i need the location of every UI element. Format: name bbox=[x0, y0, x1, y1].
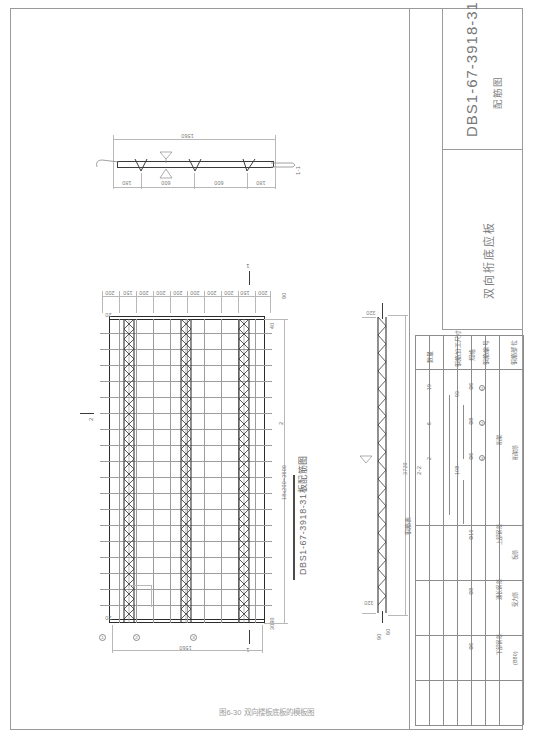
section-mark-2-left: 2 bbox=[88, 417, 94, 421]
table-border-right bbox=[523, 335, 524, 725]
ext-line bbox=[187, 291, 188, 313]
ext-line bbox=[119, 291, 120, 313]
title-block-sep bbox=[442, 149, 522, 150]
ext-line bbox=[238, 291, 239, 313]
plan-dim-top-10: 200 bbox=[258, 290, 268, 295]
title-block: DBS1-67-3918-31 配筋图 双向桁底应板 bbox=[409, 9, 522, 729]
dim-segment-3: 600 bbox=[214, 180, 224, 185]
ext-line bbox=[153, 291, 154, 313]
ext-line bbox=[262, 625, 263, 653]
ext-line bbox=[270, 291, 271, 313]
leader-line bbox=[151, 585, 152, 607]
ext-line bbox=[112, 625, 113, 653]
rebar-longitudinal bbox=[221, 319, 222, 623]
rebar-longitudinal bbox=[153, 319, 154, 623]
plan-dim-top-9: 150 bbox=[240, 290, 250, 295]
plan-dim-right-edge: 90 bbox=[282, 293, 287, 299]
plan-dim-top-4: 200 bbox=[156, 290, 166, 295]
truss-symbol-icon bbox=[133, 158, 149, 174]
rebar-bubble-2[interactable]: 2 bbox=[133, 634, 140, 641]
section-mark-1-top: 1 bbox=[246, 263, 250, 269]
dim-segment-2: 600 bbox=[161, 180, 171, 185]
sec2-height-note: 90 bbox=[377, 634, 382, 640]
slab-outline-top bbox=[109, 316, 264, 317]
rebar-bubble-3[interactable]: 3 bbox=[190, 634, 197, 641]
plan-dim-corner-tr: 40 bbox=[270, 323, 275, 329]
ext-line bbox=[388, 615, 408, 616]
ext-line bbox=[264, 319, 288, 320]
section-mark-2-right: 2 bbox=[278, 421, 284, 425]
leader-line bbox=[362, 613, 376, 614]
truss-top-chord-extension bbox=[382, 303, 383, 319]
ext-line bbox=[136, 291, 137, 313]
rebar-bubble-1[interactable]: 1 bbox=[99, 634, 106, 641]
plan-dim-corner-tl: 20 bbox=[105, 312, 111, 317]
dim-total-width: 1560 bbox=[181, 133, 194, 138]
truss-symbol-icon bbox=[241, 158, 257, 174]
rebar-longitudinal bbox=[204, 319, 205, 623]
rebar-longitudinal bbox=[255, 319, 256, 623]
ext-line bbox=[255, 291, 256, 313]
slab-outline-left bbox=[109, 316, 110, 623]
ext-line bbox=[247, 173, 248, 189]
title-block-left-border bbox=[409, 9, 410, 729]
section-mark-2-line bbox=[80, 413, 94, 414]
ext-line bbox=[170, 291, 171, 313]
ext-line bbox=[141, 173, 142, 189]
ext-line bbox=[113, 167, 114, 189]
title-block-divider bbox=[442, 149, 443, 329]
plan-dim-right-total: 18x200=3600 bbox=[282, 465, 287, 500]
truss-band-3 bbox=[237, 319, 251, 623]
sec2-dim-bottom: 320 bbox=[364, 600, 374, 605]
rebar-longitudinal bbox=[119, 319, 120, 623]
ext-line bbox=[388, 315, 408, 316]
sec2-dim-top: 320 bbox=[366, 310, 376, 315]
rebar-longitudinal bbox=[170, 319, 171, 623]
rebar-longitudinal bbox=[136, 319, 137, 623]
slab-outline-right bbox=[264, 316, 265, 623]
title-block-divider bbox=[442, 9, 443, 149]
plan-dim-top-6: 200 bbox=[190, 290, 200, 295]
leader-line bbox=[362, 317, 376, 318]
plan-view-title: DBS1-67-3918-31板配筋图 bbox=[299, 455, 308, 575]
dim-line bbox=[113, 139, 275, 140]
title-underline bbox=[293, 475, 295, 580]
figure-caption: 图6-30 双向楼板底板的模板图 bbox=[0, 706, 533, 717]
truss-symbol-icon bbox=[187, 158, 203, 174]
ext-line bbox=[275, 167, 276, 189]
rebar-hook-icon bbox=[95, 155, 121, 173]
plan-dim-top-3: 200 bbox=[139, 290, 149, 295]
ext-line bbox=[221, 291, 222, 313]
drawing-sheet: 1560 bbox=[0, 0, 533, 740]
section-1-1-label: 1-1 bbox=[295, 166, 301, 175]
sec2-dim-length: 3720 bbox=[403, 462, 408, 475]
callout-marker-icon bbox=[157, 149, 175, 163]
plan-dim-top-2: 150 bbox=[123, 290, 133, 295]
callout-marker-icon bbox=[358, 453, 378, 467]
plan-dim-top-1: 200 bbox=[105, 290, 115, 295]
title-block-sep bbox=[442, 329, 522, 330]
plan-dim-top-5: 200 bbox=[173, 290, 183, 295]
leader-line bbox=[129, 585, 151, 586]
section-mark-1-line bbox=[249, 271, 250, 285]
plan-dim-top-8: 200 bbox=[224, 290, 234, 295]
section-1-1-view: 1560 bbox=[95, 125, 305, 215]
plan-dim-top-7: 200 bbox=[207, 290, 217, 295]
dim-segment-4: 180 bbox=[256, 180, 266, 185]
plan-dim-bottom-width: 1560 bbox=[179, 645, 192, 650]
ext-line bbox=[194, 173, 195, 189]
section-mark-1-line bbox=[249, 630, 250, 644]
truss-bottom-chord-extension bbox=[382, 611, 383, 623]
drawing-type: 配筋图 bbox=[493, 76, 503, 109]
plan-view: 200 150 200 200 200 200 200 200 150 200 … bbox=[92, 285, 307, 660]
dim-segment-1: 180 bbox=[122, 180, 132, 185]
ext-line bbox=[102, 291, 103, 313]
plan-dim-corner-bl: 20 bbox=[105, 615, 111, 620]
truss-band-2 bbox=[179, 319, 193, 623]
truss-band-1 bbox=[122, 319, 136, 623]
ext-line bbox=[264, 623, 288, 624]
drawing-code: DBS1-67-3918-31 bbox=[464, 1, 479, 137]
product-name: 双向桁底应板 bbox=[484, 221, 495, 299]
ext-line bbox=[204, 291, 205, 313]
sec2-thickness: 60 bbox=[386, 629, 391, 635]
